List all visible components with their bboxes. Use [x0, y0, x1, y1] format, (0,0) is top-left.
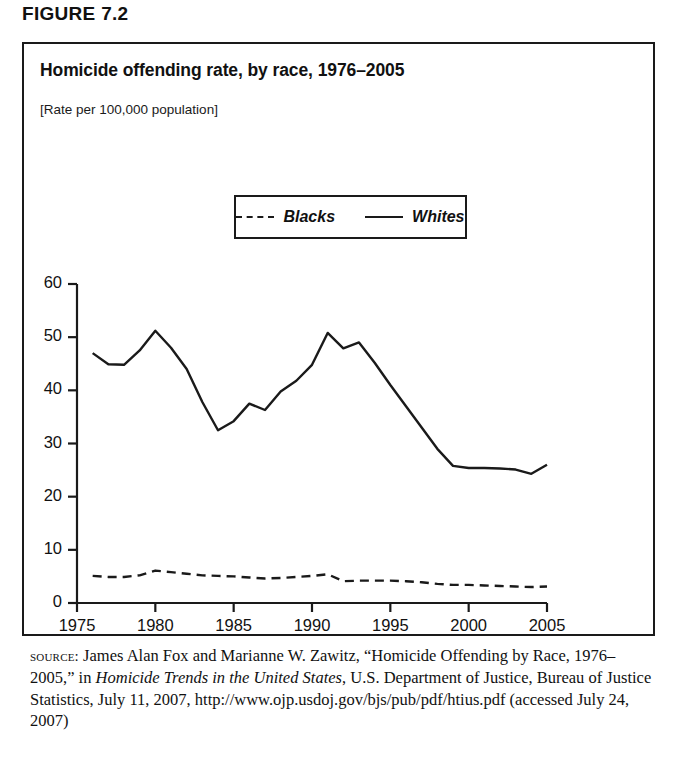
x-tick-label: 1995: [360, 616, 420, 635]
series-line-blacks: [93, 571, 547, 587]
figure-panel: Homicide offending rate, by race, 1976–2…: [22, 42, 655, 636]
y-tick-label: 0: [22, 592, 62, 611]
x-tick-label: 1975: [47, 616, 107, 635]
x-tick-label: 1990: [282, 616, 342, 635]
source-italic-2: States: [303, 668, 342, 687]
y-tick-label: 60: [22, 273, 62, 292]
x-tick-label: 1985: [204, 616, 264, 635]
source-line-1: James Alan Fox and Marianne W. Zawitz, “…: [79, 646, 436, 665]
y-tick-label: 30: [22, 433, 62, 452]
line-chart-svg: [24, 44, 657, 638]
source-italic-1: Homicide Trends in the United: [96, 668, 299, 687]
chart-series: [93, 331, 547, 587]
plot-area: 0102030405060197519801985199019952000200…: [24, 44, 657, 638]
series-line-whites: [93, 331, 547, 474]
x-tick-label: 1980: [125, 616, 185, 635]
source-note: source: James Alan Fox and Marianne W. Z…: [30, 645, 655, 732]
y-tick-label: 20: [22, 486, 62, 505]
source-line-4: 2007, http://www.ojp.usdoj.gov/bjs/pub/p…: [154, 690, 605, 709]
chart-axes: [68, 284, 547, 612]
x-tick-label: 2005: [517, 616, 577, 635]
y-tick-label: 10: [22, 539, 62, 558]
y-tick-label: 40: [22, 379, 62, 398]
y-tick-label: 50: [22, 326, 62, 345]
figure-label: FIGURE 7.2: [22, 3, 128, 25]
x-tick-label: 2000: [439, 616, 499, 635]
source-prefix: source:: [30, 648, 79, 664]
